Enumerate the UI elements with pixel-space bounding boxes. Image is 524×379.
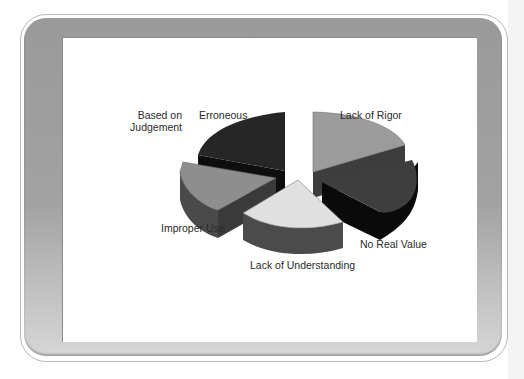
pie-chart [0,0,524,379]
label-line-1: Based on [122,109,182,121]
label-based-on-judgement: Based on Judgement [122,109,182,133]
label-improper-use: Improper Use [161,222,225,234]
label-lack-of-rigor: Lack of Rigor [340,109,402,121]
label-line-2: Judgement [122,121,182,133]
label-erroneous: Erroneous [199,109,247,121]
label-lack-of-understanding: Lack of Understanding [250,259,355,271]
label-no-real-value: No Real Value [360,238,427,250]
